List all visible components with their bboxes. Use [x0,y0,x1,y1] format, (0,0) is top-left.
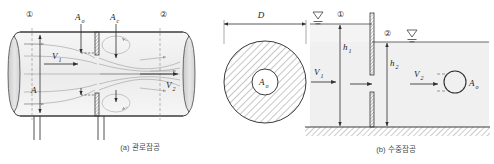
label-contracta-area: A c [109,12,120,24]
svg-text:2: 2 [421,75,424,81]
section-1-label-b: ① [337,10,344,19]
svg-text:A: A [468,78,475,88]
panel-a-pipe-orifice: ① ② A o A c A V 1 V 2 (a) 관로잠공 [8,10,195,152]
svg-text:1: 1 [349,48,352,54]
water-level-symbol-upstream [313,12,323,24]
svg-text:2: 2 [396,64,399,70]
svg-text:o: o [476,84,479,90]
caption-a: (a) 관로잠공 [120,142,159,152]
label-orifice-area: A o [74,12,85,24]
water-level-symbol-downstream [407,30,417,42]
svg-text:h: h [343,42,348,52]
submerged-orifice-wall [370,13,374,127]
piezometer-taps [34,116,104,140]
svg-text:1: 1 [321,73,324,79]
panel-cross-section: D A o [224,10,306,123]
svg-text:o: o [82,18,85,24]
svg-text:A: A [74,12,81,22]
label-diameter: D [257,10,265,20]
section-2-label-b: ② [384,29,391,38]
svg-text:1: 1 [59,57,62,63]
caption-b: (b) 수중잠공 [376,144,415,154]
svg-text:D: D [257,10,265,20]
section-1-label: ① [26,10,33,19]
svg-text:2: 2 [173,86,176,92]
section-2-label: ② [160,10,167,19]
svg-text:c: c [117,18,120,24]
figure-container: ① ② A o A c A V 1 V 2 (a) 관로잠공 D [0,0,494,164]
panel-b-submerged-orifice: ① ② h 1 h 2 V 1 V 2 A o (b) 수중잠공 [305,10,490,154]
label-pipe-area: A [30,85,37,95]
water-upstream-top [310,24,372,42]
svg-text:h: h [390,58,395,68]
channel-bed [305,127,490,136]
svg-text:A: A [109,12,116,22]
svg-text:A: A [258,77,265,87]
svg-text:o: o [266,83,269,89]
